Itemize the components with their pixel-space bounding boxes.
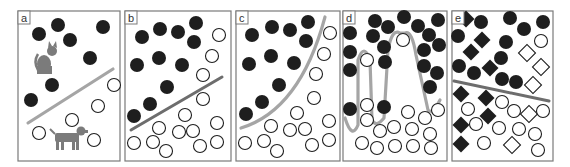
panel-e: e — [451, 11, 553, 161]
panel-c-label: c — [239, 12, 245, 24]
panel-d: d — [343, 10, 447, 161]
panel-a: a — [18, 11, 121, 161]
panel-b: b — [125, 11, 231, 161]
panel-c: c — [236, 11, 340, 161]
panel-e-label: e — [455, 12, 461, 24]
panel-d-label: d — [346, 12, 352, 24]
classification-figure: a — [0, 0, 570, 167]
panel-a-label: a — [21, 12, 28, 24]
panel-b-label: b — [128, 12, 134, 24]
